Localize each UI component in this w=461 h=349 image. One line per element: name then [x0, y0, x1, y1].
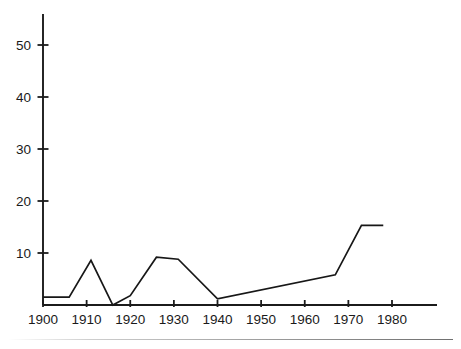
x-tick-label-1970: 1970: [333, 312, 363, 327]
chart-container: 1020304050 19001910192019301940195019601…: [0, 0, 461, 349]
x-tick-label-1980: 1980: [377, 312, 407, 327]
y-tick-label-10: 10: [16, 246, 31, 261]
x-axis-ticks: [43, 300, 392, 307]
line-chart: 1020304050 19001910192019301940195019601…: [0, 0, 461, 349]
y-axis-tick-labels: 1020304050: [16, 38, 31, 261]
y-tick-label-30: 30: [16, 142, 31, 157]
x-tick-label-1900: 1900: [28, 312, 58, 327]
footer-divider: [8, 339, 453, 340]
x-tick-label-1960: 1960: [290, 312, 320, 327]
y-tick-label-20: 20: [16, 194, 31, 209]
x-tick-label-1950: 1950: [246, 312, 276, 327]
y-tick-label-40: 40: [16, 90, 31, 105]
x-tick-label-1920: 1920: [115, 312, 145, 327]
y-tick-label-50: 50: [16, 38, 31, 53]
x-axis-tick-labels: 190019101920193019401950196019701980: [28, 312, 407, 327]
x-tick-label-1910: 1910: [72, 312, 102, 327]
axes: [43, 14, 437, 305]
x-tick-label-1940: 1940: [202, 312, 232, 327]
data-series-group: [43, 225, 383, 305]
data-line-series-1: [43, 225, 383, 305]
x-tick-label-1930: 1930: [159, 312, 189, 327]
